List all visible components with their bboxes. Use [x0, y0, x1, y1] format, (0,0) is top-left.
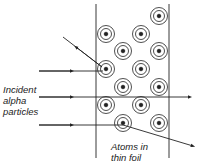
- incident-label-line-3: particles: [3, 106, 38, 117]
- incident-label-line-1: Incident: [3, 84, 38, 95]
- atom: [133, 26, 150, 43]
- atom: [115, 43, 132, 60]
- atom: [133, 97, 150, 114]
- foil-label-line-2: thin foil: [111, 152, 148, 163]
- reflected-arrow: [76, 47, 102, 67]
- incident-label: Incident alpha particles: [3, 84, 38, 117]
- atom: [98, 97, 115, 114]
- atom: [151, 79, 168, 96]
- foil-label-line-1: Atoms in: [111, 141, 148, 152]
- foil-label: Atoms in thin foil: [111, 141, 148, 163]
- atom: [115, 79, 132, 96]
- atoms: [98, 8, 168, 132]
- atom: [151, 43, 168, 60]
- atom: [151, 8, 168, 25]
- rutherford-scattering-diagram: [0, 0, 199, 164]
- incident-label-line-2: alpha: [3, 95, 38, 106]
- atom: [151, 115, 168, 132]
- atom: [115, 115, 132, 132]
- atom: [133, 61, 150, 78]
- atom: [98, 26, 115, 43]
- atom: [98, 61, 115, 78]
